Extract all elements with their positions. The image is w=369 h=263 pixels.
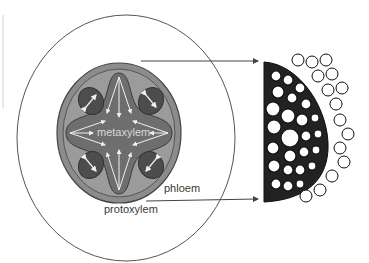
label-protoxylem: protoxylem [104, 203, 158, 215]
micrograph [264, 54, 354, 202]
pointer-bottom [146, 199, 258, 201]
label-metaxylem: metaxylem [97, 126, 150, 138]
diagram-canvas [0, 0, 369, 263]
label-phloem: phloem [164, 182, 200, 194]
